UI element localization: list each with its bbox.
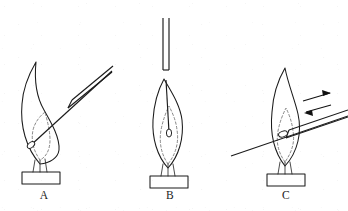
flame-base-wisp-c-3 (290, 162, 292, 174)
flame-base-wisp-b-1 (161, 164, 163, 176)
wire-holder-bottom-a (68, 72, 112, 108)
flame-outer-cone-b (153, 79, 183, 168)
flame-base-wisp-c-1 (278, 162, 280, 174)
diagram-canvas: A B (0, 0, 348, 211)
panel-label-b: B (166, 189, 174, 201)
burner-top-a (22, 172, 60, 184)
panel-c: C (231, 68, 348, 201)
panel-label-a: A (40, 189, 49, 201)
panel-label-c: C (282, 189, 290, 201)
flame-base-wisp-a-3 (45, 159, 47, 172)
flame-outer-cone-a (22, 62, 59, 164)
wire-bead-b (166, 129, 171, 137)
flame-base-wisp-a-1 (33, 160, 35, 172)
flame-base-wisp-b-3 (173, 164, 175, 176)
wire-holder-top-a (72, 66, 113, 100)
burner-top-b (150, 176, 188, 188)
flame-outer-cone-c (272, 68, 300, 166)
burner-top-c (267, 174, 305, 186)
platinum-wire-shaft-c (231, 116, 348, 156)
panel-b: B (150, 18, 188, 201)
flame-test-figure: A B (0, 0, 348, 211)
motion-arrow-right-head-c (322, 90, 331, 96)
panel-a: A (22, 62, 113, 201)
